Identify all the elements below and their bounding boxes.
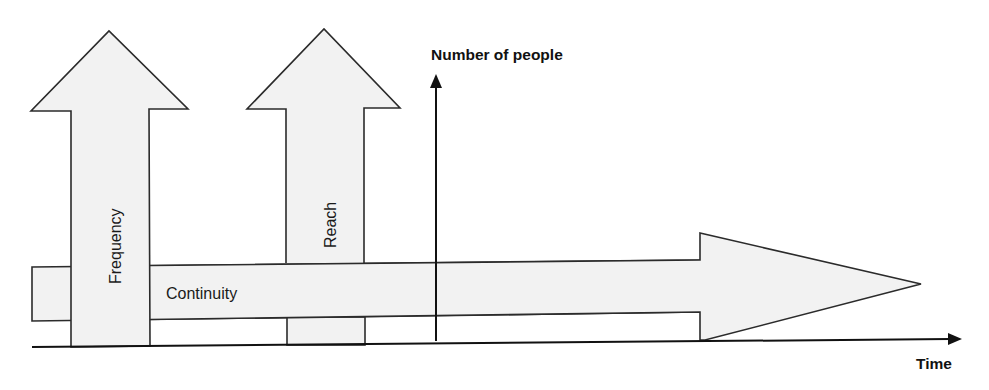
frequency-label: Frequency [107, 208, 124, 284]
y-axis-arrowhead-icon [430, 74, 442, 88]
x-axis-arrowhead-icon [948, 333, 962, 345]
x-axis-label: Time [916, 355, 952, 372]
diagram-canvas: Number of people Time Frequency Reach Co… [0, 0, 989, 390]
reach-arrow-lower-shaft [287, 317, 365, 345]
x-axis [32, 333, 962, 347]
continuity-label: Continuity [166, 285, 237, 302]
y-axis-label: Number of people [431, 46, 563, 63]
reach-label: Reach [322, 202, 339, 248]
